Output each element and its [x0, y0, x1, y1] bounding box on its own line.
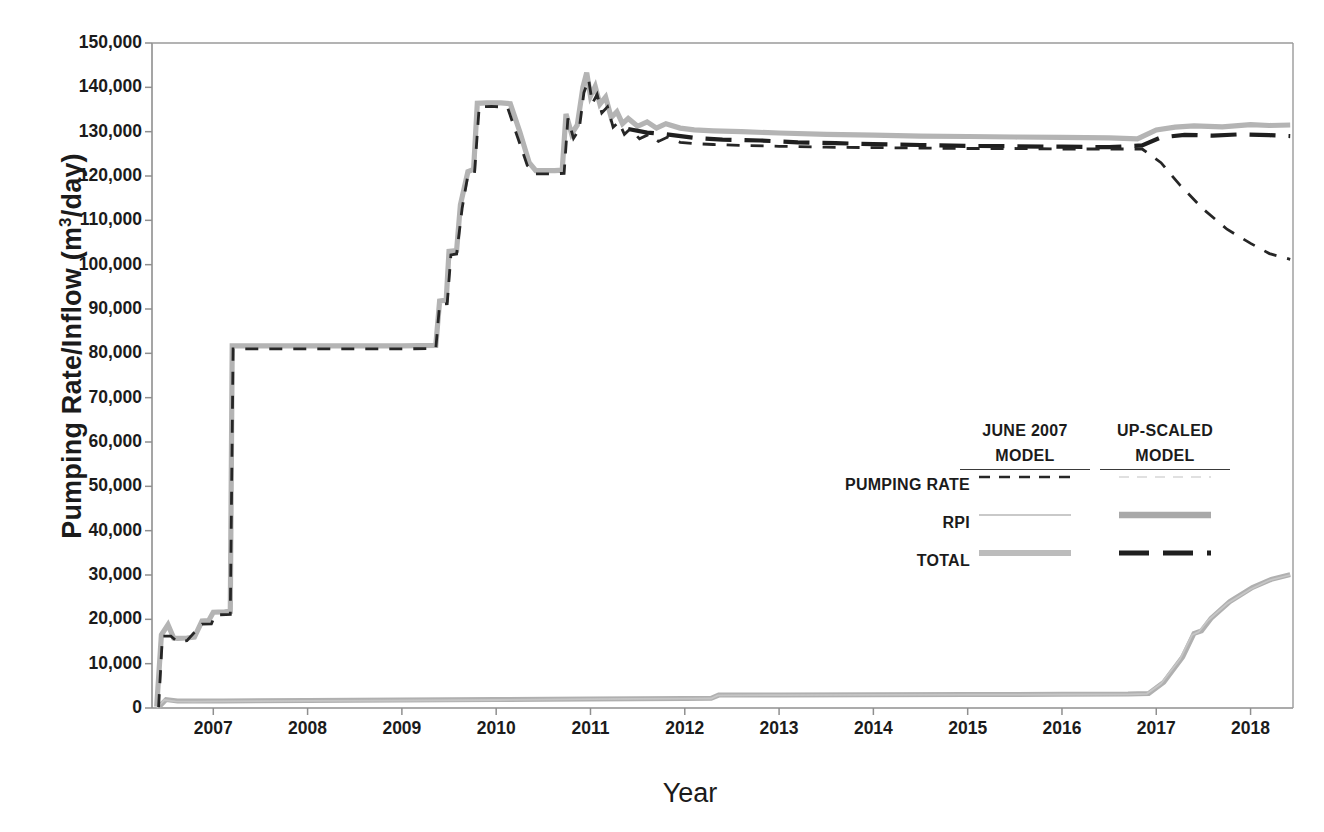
legend-row-total: TOTAL	[735, 546, 1255, 584]
x-axis-ticks	[213, 708, 1250, 715]
legend-header: JUNE 2007 MODEL UP-SCALED MODEL	[735, 418, 1255, 470]
legend-col2-line2: MODEL	[1100, 443, 1230, 470]
chart-figure: Pumping Rate/Inflow (m3/day) 150,000140,…	[0, 0, 1324, 832]
x-tick-label: 2013	[734, 718, 824, 739]
x-tick-label: 2014	[828, 718, 918, 739]
legend-swatch-rpi-upscaled	[1115, 508, 1215, 522]
x-tick-label: 2007	[168, 718, 258, 739]
data-series-layer	[157, 73, 1291, 708]
legend-swatch-total-june2007	[975, 546, 1075, 560]
x-tick-label: 2011	[545, 718, 635, 739]
series-line	[159, 575, 1291, 708]
legend-col1-line1: JUNE 2007	[982, 422, 1067, 439]
x-tick-label: 2017	[1111, 718, 1201, 739]
legend-label-rpi: RPI	[942, 514, 970, 532]
x-tick-label: 2009	[357, 718, 447, 739]
x-tick-label: 2010	[451, 718, 541, 739]
plot-canvas	[0, 0, 1324, 832]
x-tick-label: 2008	[263, 718, 353, 739]
legend-swatch-rpi-june2007	[975, 508, 1075, 522]
legend-swatch-pumping-rate-june2007	[975, 470, 1075, 484]
legend-column-june2007: JUNE 2007 MODEL	[960, 418, 1090, 470]
legend-swatch-total-upscaled	[1115, 546, 1215, 560]
x-tick-label: 2015	[923, 718, 1013, 739]
legend-row-rpi: RPI	[735, 508, 1255, 546]
legend-label-total: TOTAL	[917, 552, 970, 570]
series-line	[157, 575, 1291, 708]
legend-column-upscaled: UP-SCALED MODEL	[1100, 418, 1230, 470]
series-line	[159, 79, 1291, 707]
x-tick-label: 2012	[640, 718, 730, 739]
legend-col1-line2: MODEL	[960, 443, 1090, 470]
legend-label-pumping-rate: PUMPING RATE	[845, 476, 970, 494]
legend-row-pumping-rate: PUMPING RATE	[735, 470, 1255, 508]
legend-col2-line1: UP-SCALED	[1117, 422, 1213, 439]
legend-swatch-pumping-rate-upscaled	[1115, 470, 1215, 484]
chart-legend: JUNE 2007 MODEL UP-SCALED MODEL PUMPING …	[735, 418, 1255, 584]
series-line	[157, 73, 1291, 707]
axis-frame	[152, 43, 1293, 708]
x-tick-label: 2016	[1017, 718, 1107, 739]
y-axis-ticks	[145, 43, 152, 708]
x-tick-label: 2018	[1206, 718, 1296, 739]
